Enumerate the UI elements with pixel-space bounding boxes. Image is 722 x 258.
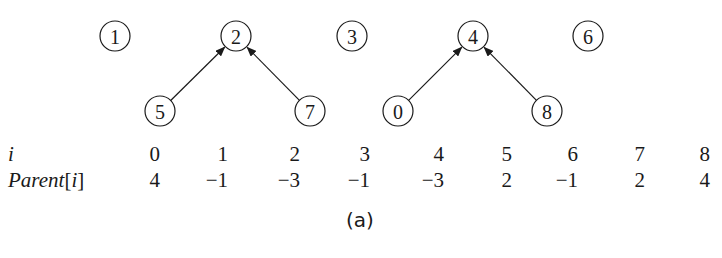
node-label: 4 [468, 26, 478, 48]
parent-cell: 2 [472, 168, 512, 193]
node-8: 8 [532, 96, 562, 126]
index-cell: 0 [120, 142, 160, 167]
parent-cell: −3 [404, 168, 444, 193]
index-cell: 4 [404, 142, 444, 167]
row-label-index: i [8, 142, 14, 167]
edge-5-to-2 [171, 47, 225, 100]
parent-cell: −3 [260, 168, 300, 193]
index-cell: 6 [538, 142, 578, 167]
node-label: 1 [110, 26, 120, 48]
node-1: 1 [100, 21, 130, 51]
node-4: 4 [458, 21, 488, 51]
edge-7-to-2 [247, 47, 299, 100]
node-label: 0 [393, 101, 403, 123]
parent-cell: 2 [605, 168, 645, 193]
edge-0-to-4 [409, 47, 462, 100]
index-cell: 7 [605, 142, 645, 167]
node-2: 2 [221, 21, 251, 51]
edge-8-to-4 [484, 47, 536, 100]
node-5: 5 [145, 96, 175, 126]
index-cell: 2 [260, 142, 300, 167]
row-label-parent: Parent[i] [8, 168, 84, 193]
node-6: 6 [573, 21, 603, 51]
figure-caption: (a) [340, 208, 380, 232]
node-label: 3 [347, 26, 357, 48]
index-cell: 1 [188, 142, 228, 167]
node-label: 5 [155, 101, 165, 123]
parent-cell: 4 [670, 168, 710, 193]
parent-cell: −1 [330, 168, 370, 193]
parent-cell: −1 [538, 168, 578, 193]
node-3: 3 [337, 21, 367, 51]
node-label: 6 [583, 26, 593, 48]
parent-label-text: Parent [8, 168, 64, 192]
bracket-close: ] [77, 168, 84, 192]
node-7: 7 [295, 96, 325, 126]
node-label: 2 [231, 26, 241, 48]
node-label: 8 [542, 101, 552, 123]
index-cell: 8 [670, 142, 710, 167]
parent-cell: 4 [120, 168, 160, 193]
node-0: 0 [383, 96, 413, 126]
parent-cell: −1 [188, 168, 228, 193]
index-cell: 3 [330, 142, 370, 167]
node-label: 7 [305, 101, 315, 123]
index-cell: 5 [472, 142, 512, 167]
